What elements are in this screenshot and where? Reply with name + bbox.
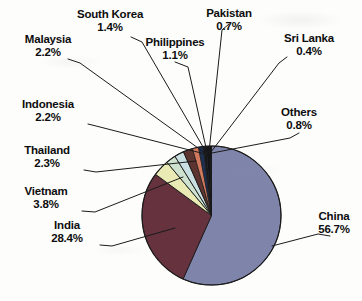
label-sri-lanka: Sri Lanka 0.4% — [268, 32, 350, 57]
label-vietnam-percent: 3.8% — [8, 198, 84, 211]
leader-line-others — [212, 133, 299, 153]
label-philippines: Philippines 1.1% — [131, 36, 219, 61]
label-indonesia-percent: 2.2% — [6, 111, 90, 124]
leader-line-indonesia — [88, 124, 205, 154]
label-vietnam: Vietnam 3.8% — [8, 185, 84, 210]
pie-slices-group: China 56.7%India 28.4%Vietnam 3.8%Thaila… — [142, 146, 281, 285]
label-philippines-percent: 1.1% — [131, 49, 219, 62]
label-vietnam-name: Vietnam — [8, 185, 84, 198]
label-others-percent: 0.8% — [262, 119, 336, 132]
leader-line-china — [272, 234, 330, 246]
label-pakistan-name: Pakistan — [188, 7, 270, 20]
label-china-name: China — [306, 210, 362, 223]
label-south-korea-name: South Korea — [62, 8, 158, 21]
label-indonesia-name: Indonesia — [6, 98, 90, 111]
label-malaysia-name: Malaysia — [10, 33, 86, 46]
label-sri-lanka-percent: 0.4% — [268, 45, 350, 58]
label-malaysia-percent: 2.2% — [10, 46, 86, 59]
label-china-percent: 56.7% — [306, 223, 362, 236]
label-sri-lanka-name: Sri Lanka — [268, 32, 350, 45]
label-others: Others 0.8% — [262, 106, 336, 131]
label-pakistan-percent: 0.7% — [188, 20, 270, 33]
label-philippines-name: Philippines — [131, 36, 219, 49]
label-china: China 56.7% — [306, 210, 362, 235]
label-others-name: Others — [262, 106, 336, 119]
label-india: India 28.4% — [32, 219, 102, 244]
leader-line-sri-lanka — [211, 57, 287, 152]
label-indonesia: Indonesia 2.2% — [6, 98, 90, 123]
pie-chart-figure: China 56.7%India 28.4%Vietnam 3.8%Thaila… — [0, 0, 362, 301]
label-india-percent: 28.4% — [32, 232, 102, 245]
label-pakistan: Pakistan 0.7% — [188, 7, 270, 32]
label-thailand: Thailand 2.3% — [8, 144, 86, 169]
label-malaysia: Malaysia 2.2% — [10, 33, 86, 58]
label-india-name: India — [32, 219, 102, 232]
label-thailand-percent: 2.3% — [8, 157, 86, 170]
label-south-korea: South Korea 1.4% — [62, 8, 158, 33]
label-south-korea-percent: 1.4% — [62, 21, 158, 34]
label-thailand-name: Thailand — [8, 144, 86, 157]
